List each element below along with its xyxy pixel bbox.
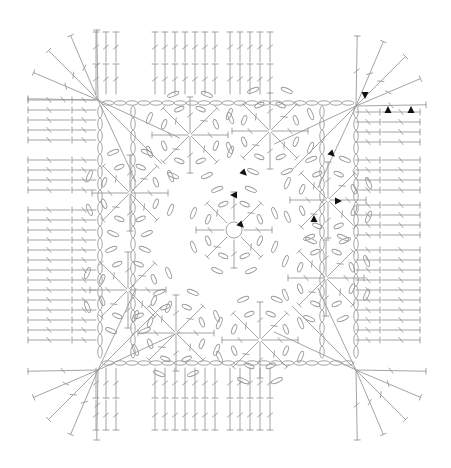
medallion-bottom: [215, 295, 305, 385]
medallion-center: [189, 185, 279, 275]
marker-arrow-icon: [408, 106, 415, 113]
crochet-chart: [0, 0, 451, 468]
medallions: [83, 86, 373, 385]
medallion-upper-right: [225, 86, 315, 176]
markers: [230, 92, 415, 230]
medallion-lower-left: [131, 288, 221, 378]
marker-arrow-icon: [230, 192, 237, 199]
marker-arrow-icon: [362, 92, 369, 99]
inner-frame: [98, 101, 358, 365]
marker-arrow-icon: [335, 198, 342, 205]
medallion-right: [283, 155, 373, 245]
marker-arrow-icon: [236, 220, 246, 230]
marker-arrow-icon: [385, 106, 392, 113]
